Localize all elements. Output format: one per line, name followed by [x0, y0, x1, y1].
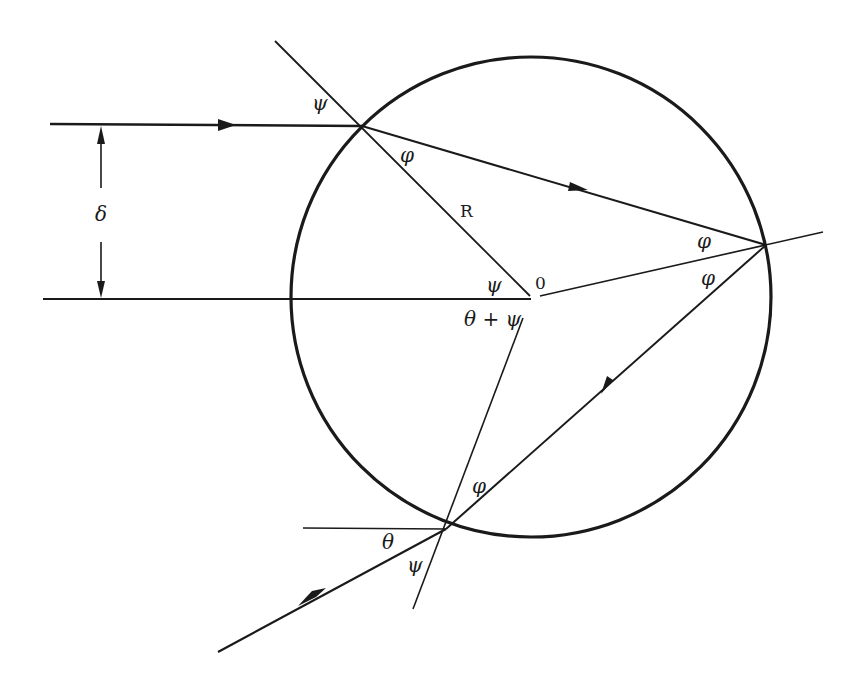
label-center-o: 0	[535, 273, 546, 293]
label-delta: δ	[95, 202, 107, 226]
delta-arrow-up-icon	[97, 126, 105, 144]
label-psi-center: ψ	[486, 273, 502, 297]
label-phi-reflect-lower: φ	[701, 266, 715, 290]
incoming-ray	[50, 124, 362, 126]
exit-normal-line	[413, 318, 523, 609]
label-theta-exit: θ	[382, 530, 394, 554]
outgoing-ray	[218, 529, 446, 652]
reflection-normal-line	[540, 232, 823, 296]
exit-horizontal-reference	[303, 528, 446, 529]
label-phi-reflect-upper: φ	[697, 229, 711, 253]
entry-normal-line	[275, 41, 530, 296]
label-theta-plus-psi: θ + ψ	[464, 307, 522, 331]
label-psi-exit: ψ	[407, 553, 423, 577]
refracted-ray-inside	[362, 126, 766, 245]
reflected-ray-arrow-icon	[601, 376, 613, 394]
droplet-ray-diagram: ψ φ R ψ 0 θ + ψ φ φ φ θ ψ δ	[0, 0, 861, 688]
label-phi-exit: φ	[472, 474, 486, 498]
label-phi-entry: φ	[400, 143, 414, 167]
label-psi-entry: ψ	[312, 91, 328, 115]
label-radius: R	[460, 201, 474, 221]
incoming-ray-arrow-icon	[218, 119, 236, 131]
refracted-ray-arrow-icon	[568, 182, 588, 191]
delta-arrow-down-icon	[97, 281, 105, 298]
